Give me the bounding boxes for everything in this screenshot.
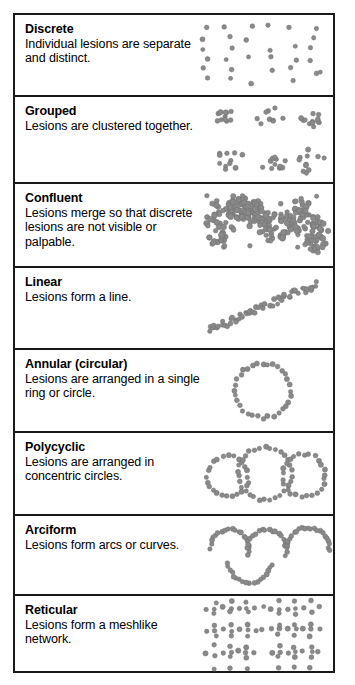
pattern-description-linear: Lesions form a line. xyxy=(25,290,207,305)
pattern-row-annular: Annular (circular)Lesions are arranged i… xyxy=(15,350,333,433)
pattern-description-grouped: Lesions are clustered together. xyxy=(25,119,207,134)
pattern-title-discrete: Discrete xyxy=(25,22,207,37)
pattern-figure-reticular xyxy=(193,596,333,675)
pattern-figure-grouped xyxy=(193,97,333,182)
pattern-figure-arciform xyxy=(193,516,333,594)
pattern-figure-linear xyxy=(193,268,333,348)
pattern-description-discrete: Individual lesions are separate and dist… xyxy=(25,37,207,66)
pattern-title-arciform: Arciform xyxy=(25,523,207,538)
pattern-text-polycyclic: PolycyclicLesions are arranged in concen… xyxy=(25,440,207,484)
pattern-description-confluent: Lesions merge so that discrete lesions a… xyxy=(25,206,207,250)
pattern-figure-discrete xyxy=(193,15,333,95)
pattern-text-annular: Annular (circular)Lesions are arranged i… xyxy=(25,357,207,401)
pattern-row-arciform: ArciformLesions form arcs or curves. xyxy=(15,516,333,596)
pattern-text-confluent: ConfluentLesions merge so that discrete … xyxy=(25,191,207,249)
pattern-row-polycyclic: PolycyclicLesions are arranged in concen… xyxy=(15,433,333,516)
pattern-figure-annular xyxy=(193,350,333,431)
pattern-row-reticular: ReticularLesions form a meshlike network… xyxy=(15,596,333,675)
pattern-title-linear: Linear xyxy=(25,275,207,290)
pattern-text-arciform: ArciformLesions form arcs or curves. xyxy=(25,523,207,552)
pattern-description-reticular: Lesions form a meshlike network. xyxy=(25,618,207,647)
pattern-figure-confluent xyxy=(193,184,333,266)
pattern-description-arciform: Lesions form arcs or curves. xyxy=(25,538,207,553)
pattern-text-reticular: ReticularLesions form a meshlike network… xyxy=(25,603,207,647)
pattern-title-confluent: Confluent xyxy=(25,191,207,206)
pattern-row-discrete: DiscreteIndividual lesions are separate … xyxy=(15,15,333,97)
pattern-text-grouped: GroupedLesions are clustered together. xyxy=(25,104,207,133)
pattern-title-grouped: Grouped xyxy=(25,104,207,119)
pattern-row-linear: LinearLesions form a line. xyxy=(15,268,333,350)
pattern-title-reticular: Reticular xyxy=(25,603,207,618)
pattern-description-annular: Lesions are arranged in a single ring or… xyxy=(25,372,207,401)
pattern-text-discrete: DiscreteIndividual lesions are separate … xyxy=(25,22,207,66)
pattern-title-polycyclic: Polycyclic xyxy=(25,440,207,455)
pattern-row-confluent: ConfluentLesions merge so that discrete … xyxy=(15,184,333,268)
lesion-pattern-chart: DiscreteIndividual lesions are separate … xyxy=(13,13,335,673)
pattern-figure-polycyclic xyxy=(193,433,333,514)
pattern-text-linear: LinearLesions form a line. xyxy=(25,275,207,304)
pattern-description-polycyclic: Lesions are arranged in concentric circl… xyxy=(25,455,207,484)
pattern-row-grouped: GroupedLesions are clustered together. xyxy=(15,97,333,184)
pattern-title-annular: Annular (circular) xyxy=(25,357,207,372)
